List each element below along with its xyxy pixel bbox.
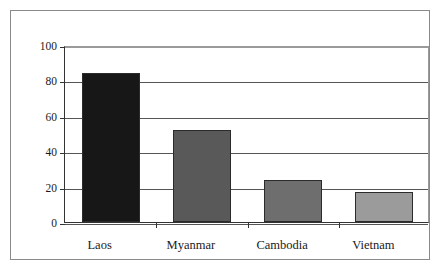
y-axis-tick-40 bbox=[60, 153, 65, 154]
gridline-y-100 bbox=[65, 47, 428, 48]
y-axis-label-40: 40 bbox=[46, 147, 58, 159]
chart-screenshot: 020406080100 LaosMyanmarCambodiaVietnam bbox=[0, 0, 443, 273]
y-axis-label-100: 100 bbox=[40, 41, 57, 53]
y-axis-tick-60 bbox=[60, 118, 65, 119]
bar-vietnam[interactable] bbox=[355, 192, 413, 222]
bar-cambodia[interactable] bbox=[264, 180, 322, 222]
x-axis-category-laos: Laos bbox=[54, 239, 145, 252]
x-axis-tick-2 bbox=[248, 222, 249, 228]
chart-outer-frame: 020406080100 LaosMyanmarCambodiaVietnam bbox=[10, 10, 430, 260]
bar-myanmar[interactable] bbox=[173, 130, 231, 222]
x-axis-category-myanmar: Myanmar bbox=[145, 239, 236, 252]
gridline-y-0 bbox=[65, 224, 428, 225]
x-axis-tick-3 bbox=[339, 222, 340, 228]
y-axis-label-20: 20 bbox=[46, 183, 58, 195]
x-axis-category-cambodia: Cambodia bbox=[237, 239, 328, 252]
y-axis-tick-20 bbox=[60, 189, 65, 190]
y-axis-label-60: 60 bbox=[46, 112, 58, 124]
x-axis-tick-1 bbox=[156, 222, 157, 228]
y-axis-tick-0 bbox=[60, 224, 65, 225]
x-axis-category-vietnam: Vietnam bbox=[328, 239, 419, 252]
y-axis-label-80: 80 bbox=[46, 77, 58, 89]
y-axis-label-0: 0 bbox=[51, 218, 57, 230]
plot-area: 020406080100 bbox=[64, 46, 429, 223]
y-axis-tick-100 bbox=[60, 47, 65, 48]
bar-laos[interactable] bbox=[82, 73, 140, 222]
y-axis-tick-80 bbox=[60, 82, 65, 83]
